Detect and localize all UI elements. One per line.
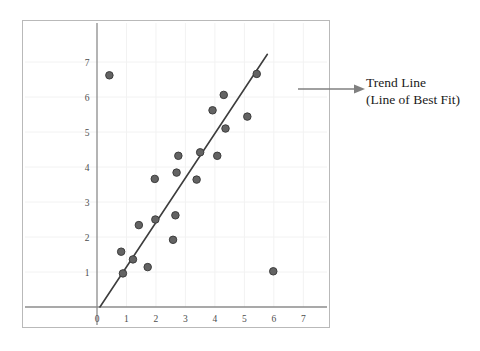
y-tick-label: 3	[85, 198, 90, 208]
x-tick-label: 5	[242, 314, 247, 324]
data-point	[209, 107, 217, 115]
trend-line-annotation: Trend Line (Line of Best Fit)	[366, 74, 478, 108]
trend-line	[100, 54, 267, 307]
plot-frame: 012345671234567	[22, 20, 330, 328]
y-tick-label: 6	[85, 93, 90, 103]
data-point	[214, 152, 222, 160]
data-point	[175, 152, 183, 160]
x-tick-label: 1	[124, 314, 129, 324]
data-point	[106, 72, 114, 80]
data-points	[106, 70, 277, 277]
y-tick-label: 5	[85, 128, 90, 138]
x-tick-label: 2	[154, 314, 159, 324]
data-point	[135, 221, 143, 229]
annotation-line-1: Trend Line	[366, 74, 478, 91]
data-point	[119, 270, 127, 278]
trend-line-path	[100, 54, 267, 307]
plot-canvas: 012345671234567	[23, 21, 329, 327]
scatter-plot-figure: 012345671234567 Trend Line (Line of Best…	[0, 0, 480, 351]
x-tick-label: 6	[271, 314, 276, 324]
data-point	[270, 268, 278, 276]
annotation-line-2: (Line of Best Fit)	[366, 91, 478, 108]
data-point	[220, 91, 228, 99]
data-point	[222, 125, 230, 133]
data-point	[196, 149, 204, 157]
x-tick-label: 3	[183, 314, 188, 324]
data-point	[151, 175, 159, 183]
y-tick-label: 7	[85, 58, 90, 68]
data-point	[253, 70, 261, 78]
gridlines	[25, 23, 327, 307]
y-tick-label: 4	[85, 163, 90, 173]
data-point	[193, 176, 201, 184]
arrow-head	[354, 85, 365, 94]
data-point	[117, 248, 125, 256]
x-tick-label: 7	[301, 314, 306, 324]
data-point	[152, 216, 160, 224]
y-tick-label: 2	[85, 233, 90, 243]
data-point	[172, 212, 180, 220]
data-point	[129, 256, 137, 264]
x-tick-label: 0	[95, 314, 100, 324]
x-tick-label: 4	[213, 314, 218, 324]
callout-arrow-icon	[298, 79, 370, 99]
data-point	[169, 236, 177, 244]
data-point	[144, 263, 152, 271]
data-point	[173, 169, 181, 177]
y-tick-label: 1	[85, 268, 90, 278]
data-point	[244, 113, 252, 121]
